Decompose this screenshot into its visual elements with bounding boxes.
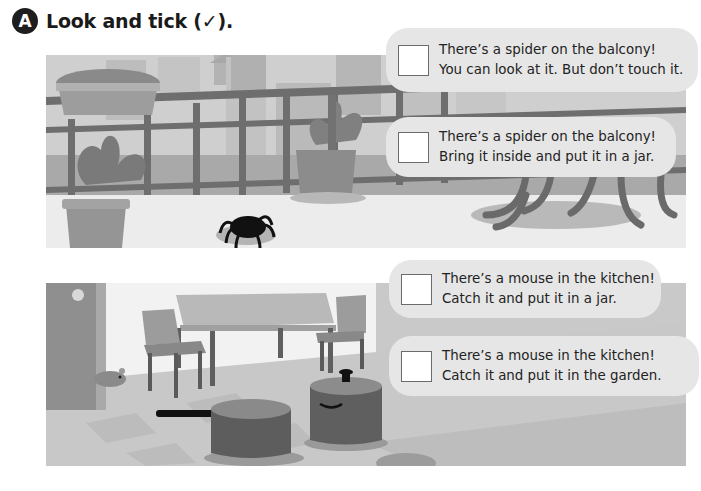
option-mouse-garden: There’s a mouse in the kitchen! Catch it… xyxy=(389,336,699,396)
tick-checkbox[interactable] xyxy=(401,351,432,382)
option-line-1: There’s a spider on the balcony! xyxy=(439,40,683,60)
option-text: There’s a mouse in the kitchen! Catch it… xyxy=(442,346,661,386)
option-text: There’s a mouse in the kitchen! Catch it… xyxy=(442,269,655,309)
door-icon xyxy=(46,283,106,410)
flower-box-icon xyxy=(56,69,160,115)
tick-checkbox[interactable] xyxy=(401,274,432,305)
option-spider-jar: There’s a spider on the balcony! Bring i… xyxy=(386,117,676,177)
exercise-heading: A Look and tick (✓). xyxy=(12,6,233,36)
option-mouse-jar: There’s a mouse in the kitchen! Catch it… xyxy=(389,260,661,318)
exercise-instruction: Look and tick (✓). xyxy=(46,10,233,32)
option-text: There’s a spider on the balcony! You can… xyxy=(439,40,683,80)
tick-checkbox[interactable] xyxy=(398,45,429,76)
option-line-1: There’s a mouse in the kitchen! xyxy=(442,269,655,289)
tick-checkbox[interactable] xyxy=(398,132,429,163)
option-line-1: There’s a spider on the balcony! xyxy=(439,127,656,147)
option-text: There’s a spider on the balcony! Bring i… xyxy=(439,127,656,167)
option-spider-look: There’s a spider on the balcony! You can… xyxy=(386,28,698,92)
option-line-2: Catch it and put it in a jar. xyxy=(442,289,655,309)
cooking-pot-icon xyxy=(304,369,388,451)
option-line-2: Bring it inside and put it in a jar. xyxy=(439,147,656,167)
option-line-2: You can look at it. But don’t touch it. xyxy=(439,60,683,80)
option-line-1: There’s a mouse in the kitchen! xyxy=(442,346,661,366)
option-line-2: Catch it and put it in the garden. xyxy=(442,366,661,386)
exercise-letter-badge: A xyxy=(12,8,38,34)
